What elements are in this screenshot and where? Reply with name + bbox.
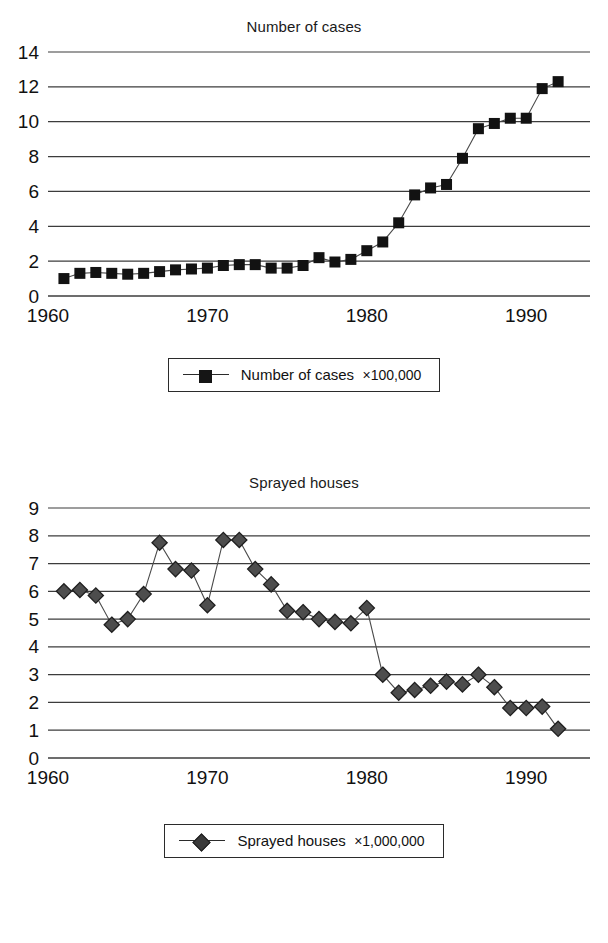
x-axis-tick-label: 1980	[346, 767, 388, 788]
data-point-marker	[280, 603, 295, 618]
y-axis-tick-label: 4	[28, 216, 39, 237]
chart-svg-cases: 024681012141960197019801990	[0, 40, 608, 340]
data-point-marker	[282, 263, 293, 274]
data-point-marker	[311, 612, 326, 627]
y-axis-tick-label: 14	[18, 42, 40, 63]
data-point-marker	[505, 113, 516, 124]
data-point-marker	[314, 252, 325, 263]
x-axis-tick-label: 1960	[27, 305, 69, 326]
data-point-marker	[295, 605, 310, 620]
chart-page: Number of cases 024681012141960197019801…	[0, 0, 608, 943]
y-axis-tick-label: 9	[28, 498, 39, 519]
legend-multiplier-cases: ×100,000	[362, 367, 421, 383]
data-point-marker	[90, 267, 101, 278]
legend-sprayed[interactable]: Sprayed houses ×1,000,000	[164, 824, 443, 858]
y-axis-tick-label: 6	[28, 181, 39, 202]
legend-marker-square-icon	[183, 367, 229, 383]
x-axis-tick-label: 1970	[186, 767, 228, 788]
data-point-marker	[200, 598, 215, 613]
data-point-marker	[377, 236, 388, 247]
data-point-marker	[423, 678, 438, 693]
data-point-marker	[186, 263, 197, 274]
figure-number-of-cases: Number of cases 024681012141960197019801…	[0, 0, 608, 462]
data-point-marker	[74, 268, 85, 279]
data-point-marker	[58, 273, 69, 284]
x-axis-tick-label: 1960	[27, 767, 69, 788]
data-point-marker	[361, 245, 372, 256]
x-axis-tick-label: 1970	[186, 305, 228, 326]
data-point-marker	[409, 189, 420, 200]
chart-title-sprayed: Sprayed houses	[0, 452, 608, 496]
data-point-marker	[218, 260, 229, 271]
data-point-marker	[473, 123, 484, 134]
data-point-marker	[88, 588, 103, 603]
data-point-marker	[154, 266, 165, 277]
legend-text-cases: Number of cases	[241, 366, 354, 383]
y-axis-tick-label: 7	[28, 553, 39, 574]
data-point-marker	[553, 76, 564, 87]
data-point-marker	[72, 582, 87, 597]
data-point-marker	[487, 680, 502, 695]
data-point-marker	[202, 263, 213, 274]
y-axis-tick-label: 2	[28, 251, 39, 272]
data-point-marker	[122, 269, 133, 280]
data-point-marker	[152, 535, 167, 550]
legend-text-sprayed: Sprayed houses	[237, 832, 345, 849]
y-axis-tick-label: 0	[28, 286, 39, 307]
data-point-marker	[439, 674, 454, 689]
data-point-marker	[329, 257, 340, 268]
x-axis-tick-label: 1990	[505, 305, 547, 326]
data-point-marker	[327, 614, 342, 629]
y-axis-tick-label: 8	[28, 146, 39, 167]
legend-row-cases: Number of cases ×100,000	[0, 358, 608, 392]
data-point-marker	[441, 179, 452, 190]
data-point-marker	[457, 153, 468, 164]
data-point-marker	[170, 264, 181, 275]
data-point-marker	[521, 113, 532, 124]
y-axis-tick-label: 0	[28, 748, 39, 769]
data-point-marker	[407, 682, 422, 697]
series-line	[64, 82, 558, 279]
y-axis-tick-label: 3	[28, 664, 39, 685]
plot-area-sprayed: 01234567891960197019801990	[0, 496, 608, 806]
data-point-marker	[136, 587, 151, 602]
data-point-marker	[120, 612, 135, 627]
y-axis-tick-label: 6	[28, 581, 39, 602]
data-point-marker	[489, 118, 500, 129]
legend-marker-diamond-icon	[179, 833, 225, 849]
data-point-marker	[393, 217, 404, 228]
chart-svg-sprayed: 01234567891960197019801990	[0, 496, 608, 806]
data-point-marker	[345, 254, 356, 265]
legend-label-cases: Number of cases ×100,000	[241, 366, 422, 383]
y-axis-tick-label: 2	[28, 692, 39, 713]
y-axis-tick-label: 8	[28, 525, 39, 546]
data-point-marker	[232, 532, 247, 547]
data-point-marker	[298, 260, 309, 271]
y-axis-tick-label: 5	[28, 609, 39, 630]
x-axis-tick-label: 1980	[346, 305, 388, 326]
data-point-marker	[425, 182, 436, 193]
data-point-marker	[184, 563, 199, 578]
x-axis-tick-label: 1990	[505, 767, 547, 788]
data-point-marker	[56, 584, 71, 599]
y-axis-tick-label: 1	[28, 720, 39, 741]
legend-cases[interactable]: Number of cases ×100,000	[168, 358, 441, 392]
data-point-marker	[535, 699, 550, 714]
chart-title-cases: Number of cases	[0, 0, 608, 40]
data-point-marker	[455, 677, 470, 692]
data-point-marker	[234, 259, 245, 270]
figure-sprayed-houses: Sprayed houses 0123456789196019701980199…	[0, 452, 608, 943]
legend-multiplier-sprayed: ×1,000,000	[354, 833, 424, 849]
data-point-marker	[250, 259, 261, 270]
data-point-marker	[471, 667, 486, 682]
data-point-marker	[537, 83, 548, 94]
y-axis-tick-label: 12	[18, 76, 39, 97]
data-point-marker	[551, 721, 566, 736]
y-axis-tick-label: 4	[28, 636, 39, 657]
data-point-marker	[138, 268, 149, 279]
series-line	[64, 540, 558, 729]
plot-area-cases: 024681012141960197019801990	[0, 40, 608, 340]
legend-row-sprayed: Sprayed houses ×1,000,000	[0, 824, 608, 858]
legend-label-sprayed: Sprayed houses ×1,000,000	[237, 832, 424, 849]
y-axis-tick-label: 10	[18, 111, 39, 132]
